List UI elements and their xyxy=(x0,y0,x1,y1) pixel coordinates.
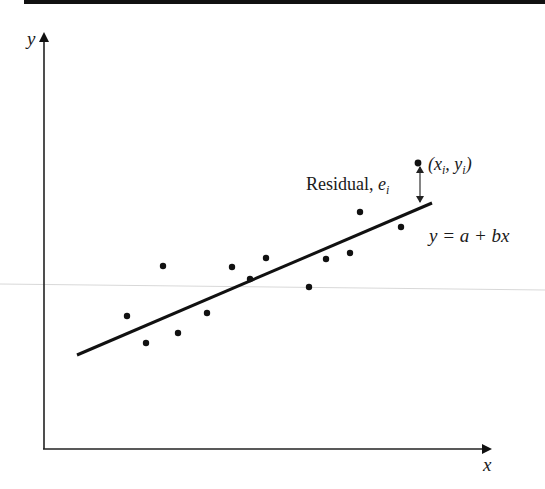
data-point xyxy=(160,263,166,269)
point-label-prefix: (x xyxy=(428,154,442,175)
residual-label-sub: i xyxy=(386,183,389,197)
data-point xyxy=(263,255,269,261)
figure-canvas: y x (xi, yi) Residual, ei y = a + bx xyxy=(0,0,545,489)
y-axis-label: y xyxy=(25,28,36,49)
data-point xyxy=(124,313,130,319)
data-point xyxy=(306,284,312,290)
regression-diagram: y x (xi, yi) Residual, ei y = a + bx xyxy=(0,0,545,489)
data-point xyxy=(204,310,210,316)
residual-label-var: e xyxy=(378,174,386,194)
highlighted-data-point xyxy=(415,160,422,167)
point-label-mid: , y xyxy=(445,154,462,174)
data-point xyxy=(143,340,149,346)
residual-label-text: Residual, xyxy=(306,174,378,194)
data-point xyxy=(357,209,363,215)
data-point xyxy=(398,224,404,230)
data-points xyxy=(124,209,404,346)
scan-artifact-line xyxy=(0,284,545,290)
data-point xyxy=(229,264,235,270)
data-point xyxy=(347,250,353,256)
point-label-suffix: ) xyxy=(465,154,472,175)
x-axis-label: x xyxy=(482,454,492,475)
data-point xyxy=(323,256,329,262)
regression-line xyxy=(77,203,432,355)
data-point xyxy=(175,330,181,336)
regression-equation-label: y = a + bx xyxy=(427,225,510,246)
data-point xyxy=(247,276,253,282)
residual-label: Residual, ei xyxy=(306,174,389,197)
point-label: (xi, yi) xyxy=(428,154,472,177)
